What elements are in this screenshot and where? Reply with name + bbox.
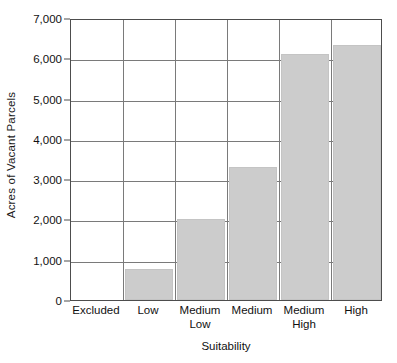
x-axis-tick-label-line: Medium — [284, 304, 325, 316]
y-axis-tick-labels: 01,0002,0003,0004,0005,0006,0007,000 — [20, 0, 66, 363]
x-axis-tick-label: Excluded — [70, 304, 122, 318]
x-axis-tick-label-line: High — [344, 304, 368, 316]
category-separator — [331, 20, 332, 300]
x-axis-tick-label-line: Medium — [180, 304, 221, 316]
y-axis-tick-mark — [64, 180, 70, 181]
bar — [177, 219, 225, 300]
x-axis-tick-label-line: Excluded — [72, 304, 119, 316]
y-axis-tick-mark — [64, 99, 70, 100]
bar — [333, 45, 381, 300]
category-separator — [279, 20, 280, 300]
y-axis-tick-mark — [64, 260, 70, 261]
bar — [281, 54, 329, 300]
y-axis-tick-label: 5,000 — [33, 94, 62, 106]
x-axis-tick-label: Medium — [226, 304, 278, 318]
y-axis-tick-mark — [64, 220, 70, 221]
x-axis-tick-labels: ExcludedLowMediumLowMediumMediumHighHigh — [70, 304, 382, 340]
category-separator — [123, 20, 124, 300]
x-axis-tick-label: Low — [122, 304, 174, 318]
x-axis-tick-label-line: Low — [137, 304, 158, 316]
y-axis-tick-label: 4,000 — [33, 134, 62, 146]
y-axis-title-text: Acres of Vacant Parcels — [5, 92, 17, 218]
y-axis-tick-label: 7,000 — [33, 13, 62, 25]
y-axis-title: Acres of Vacant Parcels — [0, 0, 22, 310]
y-axis-tick-mark — [64, 301, 70, 302]
bar-chart-figure: Acres of Vacant Parcels 01,0002,0003,000… — [0, 0, 397, 363]
x-axis-tick-label-line: High — [278, 318, 330, 332]
y-axis-tick-label: 3,000 — [33, 174, 62, 186]
category-separator — [227, 20, 228, 300]
y-axis-tick-label: 2,000 — [33, 214, 62, 226]
y-axis-tick-mark — [64, 139, 70, 140]
y-axis-tick-label: 6,000 — [33, 53, 62, 65]
bar — [229, 167, 277, 300]
x-axis-tick-label: MediumHigh — [278, 304, 330, 331]
x-axis-tick-label: MediumLow — [174, 304, 226, 331]
x-axis-tick-label-line: Low — [174, 318, 226, 332]
y-axis-tick-label: 1,000 — [33, 255, 62, 267]
x-axis-tick-label-line: Medium — [232, 304, 273, 316]
y-axis-tick-mark — [64, 19, 70, 20]
category-separator — [175, 20, 176, 300]
bar — [125, 269, 173, 300]
x-axis-title: Suitability — [70, 340, 382, 352]
y-axis-tick-mark — [64, 59, 70, 60]
plot-area — [70, 19, 382, 301]
y-axis-tick-label: 0 — [56, 295, 62, 307]
x-axis-tick-label: High — [330, 304, 382, 318]
